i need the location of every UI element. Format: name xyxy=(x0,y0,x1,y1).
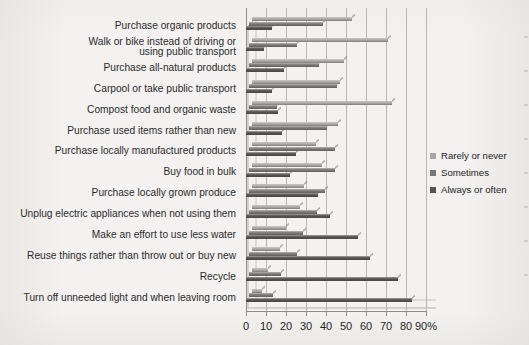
x-tick-label: 70 xyxy=(380,320,392,332)
bar xyxy=(252,142,316,146)
bar xyxy=(252,289,262,293)
gridline-70 xyxy=(386,8,387,311)
bar xyxy=(252,122,338,126)
bar xyxy=(249,105,277,109)
bar xyxy=(252,101,392,105)
bar xyxy=(252,17,352,21)
bar xyxy=(252,268,268,272)
category-label: Purchase locally manufactured products xyxy=(0,146,236,157)
bar xyxy=(246,298,412,302)
category-label: Buy food in bulk xyxy=(0,167,236,178)
legend-item[interactable]: Always or often xyxy=(430,182,526,197)
x-tick xyxy=(386,311,387,316)
gridline-80 xyxy=(406,8,407,311)
gridline-10 xyxy=(266,8,267,311)
category-axis-labels: Purchase organic productsWalk or bike in… xyxy=(0,13,242,305)
bar xyxy=(246,68,284,72)
bar-chart: Purchase organic productsWalk or bike in… xyxy=(0,0,529,345)
edge-artifact xyxy=(524,36,528,38)
edge-artifact xyxy=(524,274,528,276)
x-tick xyxy=(306,311,307,316)
x-tick xyxy=(286,311,287,316)
bar xyxy=(249,63,319,67)
x-tick-label: 30 xyxy=(300,320,312,332)
category-label: Recycle xyxy=(0,272,236,283)
plot-area xyxy=(246,8,426,311)
category-label: Unplug electric appliances when not usin… xyxy=(0,209,236,220)
category-label: Carpool or take public transport xyxy=(0,84,236,95)
x-tick-label: 50 xyxy=(340,320,352,332)
category-label: Reuse things rather than throw out or bu… xyxy=(0,251,236,262)
bar xyxy=(252,38,388,42)
category-label: Walk or bike instead of driving or using… xyxy=(0,37,236,58)
x-tick xyxy=(246,311,247,316)
gridline-0 xyxy=(246,8,247,311)
category-label: Purchase organic products xyxy=(0,21,236,32)
x-tick xyxy=(326,311,327,316)
x-tick-label: 0 xyxy=(243,320,249,332)
legend-swatch-icon xyxy=(430,170,436,176)
legend-swatch-icon xyxy=(430,187,436,193)
x-tick xyxy=(406,311,407,316)
edge-artifact xyxy=(524,70,528,72)
legend-swatch-icon xyxy=(430,153,436,159)
bar xyxy=(246,152,296,156)
bar xyxy=(249,147,335,151)
value-axis-labels: 0102030405060708090% xyxy=(246,320,476,338)
x-tick-label: 40 xyxy=(320,320,332,332)
bar xyxy=(246,26,272,30)
bar xyxy=(252,59,344,63)
value-axis xyxy=(246,311,446,319)
legend-item[interactable]: Rarely or never xyxy=(430,148,526,163)
bar xyxy=(249,189,325,193)
x-tick-label: 80 xyxy=(400,320,412,332)
bar xyxy=(249,252,297,256)
bar xyxy=(246,256,370,260)
legend-label: Sometimes xyxy=(441,167,489,178)
x-tick-label: 90% xyxy=(415,320,437,332)
gridline-50 xyxy=(346,8,347,311)
x-tick-label: 60 xyxy=(360,320,372,332)
legend-item[interactable]: Sometimes xyxy=(430,165,526,180)
legend-label: Always or often xyxy=(441,184,507,195)
edge-artifact xyxy=(524,240,528,242)
bar xyxy=(249,168,335,172)
bar xyxy=(249,84,337,88)
edge-artifact xyxy=(524,104,528,106)
edge-artifact xyxy=(524,138,528,140)
category-label: Turn off unneeded light and when leaving… xyxy=(0,293,236,304)
x-tick xyxy=(366,311,367,316)
bar xyxy=(246,235,358,239)
category-label: Make an effort to use less water xyxy=(0,230,236,241)
bar xyxy=(249,22,323,26)
bar xyxy=(249,43,297,47)
legend-label: Rarely or never xyxy=(441,150,507,161)
category-label: Purchase all-natural products xyxy=(0,63,236,74)
bar xyxy=(249,126,327,130)
bar xyxy=(246,277,398,281)
x-tick-label: 20 xyxy=(280,320,292,332)
x-tick xyxy=(266,311,267,316)
bar xyxy=(246,131,282,135)
gridline-20 xyxy=(286,8,287,311)
x-tick xyxy=(426,311,427,316)
gridline-60 xyxy=(366,8,367,311)
bar xyxy=(246,173,290,177)
bar xyxy=(246,193,318,197)
bar xyxy=(246,110,278,114)
gridline-30 xyxy=(306,8,307,311)
gridline-90 xyxy=(426,8,427,311)
bar xyxy=(252,80,340,84)
bar xyxy=(246,214,330,218)
bar xyxy=(249,272,281,276)
x-tick xyxy=(346,311,347,316)
bar xyxy=(252,205,300,209)
value-axis-line xyxy=(246,311,427,312)
gridline-40 xyxy=(326,8,327,311)
bar xyxy=(246,89,272,93)
bar xyxy=(249,293,273,297)
bar xyxy=(249,231,303,235)
edge-artifact xyxy=(524,206,528,208)
category-label: Compost food and organic waste xyxy=(0,105,236,116)
gridlines xyxy=(246,8,426,311)
